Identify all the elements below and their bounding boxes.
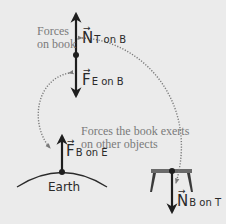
- action-reaction-link-table: [82, 38, 181, 183]
- label-f-e-on-b: →FE on B: [82, 72, 124, 88]
- label-f-b-on-e: →FB on E: [66, 143, 108, 159]
- vector-subscript: E on B: [92, 76, 124, 87]
- label-n-b-on-t: →NB on T: [177, 193, 221, 209]
- forces-on-book-caption: Forces on book: [37, 25, 76, 51]
- action-reaction-link-earth: [38, 73, 69, 148]
- caption-line: on book: [37, 38, 76, 51]
- vector-arrow-icon: →: [178, 187, 186, 196]
- table-dot: [169, 168, 175, 174]
- vector-subscript: B on E: [76, 147, 108, 158]
- free-body-diagram: Forces on book Forces the book exerts on…: [0, 0, 226, 224]
- earth-label: Earth: [48, 180, 80, 194]
- book-dot: [73, 52, 79, 58]
- earth-dot: [59, 169, 65, 175]
- label-n-t-on-b: →NT on B: [82, 30, 126, 46]
- vector-arrow-icon: →: [83, 24, 91, 33]
- vector-subscript: T on B: [94, 34, 126, 45]
- vector-arrow-icon: →: [67, 137, 75, 146]
- vector-arrow-icon: →: [83, 66, 91, 75]
- vector-subscript: B on T: [189, 197, 221, 208]
